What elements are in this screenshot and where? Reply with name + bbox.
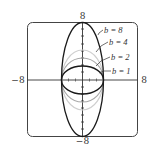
ellipse-family-graph: 8 −8 −8 8 b = 8 b = 4 b = 2 b = 1: [0, 0, 151, 146]
x-max-label: 8: [141, 75, 147, 85]
label-b1: b = 1: [112, 66, 131, 76]
label-b2: b = 2: [111, 52, 130, 62]
label-b4: b = 4: [109, 37, 128, 47]
x-min-label: −8: [11, 75, 25, 85]
y-min-label: −8: [76, 136, 90, 146]
y-max-label: 8: [80, 11, 86, 21]
label-b8: b = 8: [104, 25, 123, 35]
